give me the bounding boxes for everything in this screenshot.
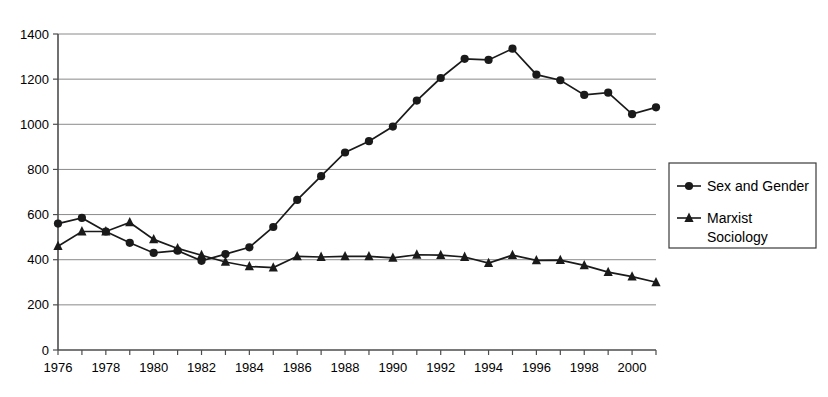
y-tick-label-800: 800 — [27, 162, 49, 177]
data-point-1984 — [245, 243, 253, 251]
legend-label-marxist: Marxist — [707, 210, 752, 226]
data-point-1988 — [341, 148, 349, 156]
y-tick-label-200: 200 — [27, 297, 49, 312]
chart-legend: Sex and GenderMarxistSociology — [669, 163, 816, 248]
y-tick-label-1000: 1000 — [20, 117, 49, 132]
data-point-1980 — [149, 234, 158, 243]
legend-label-sociology: Sociology — [707, 229, 768, 245]
data-point-1992 — [437, 74, 445, 82]
y-tick-label-0: 0 — [42, 343, 49, 358]
data-point-1985 — [269, 223, 277, 231]
data-point-1979 — [125, 217, 134, 226]
data-point-2001 — [652, 103, 660, 111]
y-axis-tick-labels: 0200400600800100012001400 — [20, 27, 58, 358]
y-tick-label-600: 600 — [27, 207, 49, 222]
data-point-2000 — [628, 110, 636, 118]
y-tick-label-1200: 1200 — [20, 72, 49, 87]
x-axis-tick-labels: 1976197819801982198419861988199019921994… — [44, 360, 647, 375]
data-point-1979 — [126, 239, 134, 247]
data-series-group — [53, 45, 660, 287]
data-point-1980 — [150, 249, 158, 257]
x-tick-label-1986: 1986 — [283, 360, 312, 375]
legend-label-sex-and-gender: Sex and Gender — [707, 178, 809, 194]
data-point-1986 — [293, 196, 301, 204]
series-marxist-sociology — [53, 217, 660, 286]
data-point-1990 — [389, 122, 397, 130]
data-point-1987 — [317, 172, 325, 180]
data-point-1996 — [532, 71, 540, 79]
x-tick-label-1980: 1980 — [139, 360, 168, 375]
x-tick-label-2000: 2000 — [618, 360, 647, 375]
y-tick-label-1400: 1400 — [20, 27, 49, 42]
x-tick-label-1996: 1996 — [522, 360, 551, 375]
x-tick-label-1994: 1994 — [474, 360, 503, 375]
x-tick-label-1978: 1978 — [91, 360, 120, 375]
series-line — [58, 222, 656, 282]
x-tick-label-1976: 1976 — [44, 360, 73, 375]
x-tick-label-1998: 1998 — [570, 360, 599, 375]
data-point-1997 — [556, 76, 564, 84]
x-tick-label-1982: 1982 — [187, 360, 216, 375]
x-tick-label-1988: 1988 — [331, 360, 360, 375]
legend-marker-circle-icon — [685, 182, 693, 190]
data-point-1999 — [604, 89, 612, 97]
line-chart-figure: 0200400600800100012001400 19761978198019… — [0, 0, 828, 397]
x-tick-label-1990: 1990 — [378, 360, 407, 375]
data-point-1994 — [484, 56, 492, 64]
data-point-1977 — [78, 214, 86, 222]
axes — [58, 34, 656, 350]
data-point-1989 — [365, 137, 373, 145]
chart-canvas: 0200400600800100012001400 19761978198019… — [0, 0, 828, 397]
data-point-1995 — [508, 250, 517, 259]
data-point-1995 — [508, 45, 516, 53]
data-point-1976 — [54, 220, 62, 228]
series-line — [58, 49, 656, 261]
gridlines — [58, 34, 656, 305]
data-point-1976 — [53, 241, 62, 250]
y-tick-label-400: 400 — [27, 252, 49, 267]
x-tick-label-1984: 1984 — [235, 360, 264, 375]
x-tick-label-1992: 1992 — [426, 360, 455, 375]
data-point-1991 — [413, 96, 421, 104]
data-point-1993 — [461, 55, 469, 63]
series-sex-and-gender — [54, 45, 660, 265]
data-point-1998 — [580, 91, 588, 99]
